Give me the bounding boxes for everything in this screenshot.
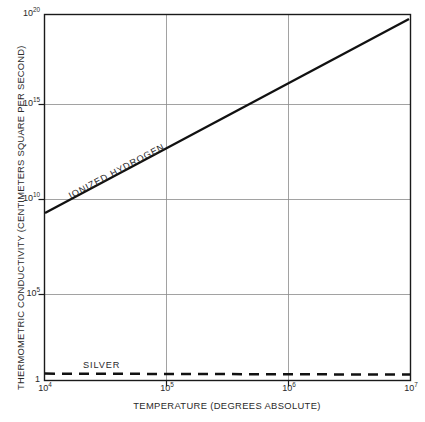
x-tick-label-1e4: 104 xyxy=(25,383,65,393)
plot-area xyxy=(0,0,425,422)
plot-frame xyxy=(45,15,411,381)
x-axis-title: TEMPERATURE (DEGREES ABSOLUTE) xyxy=(44,400,410,411)
horizontal-gridlines xyxy=(45,105,411,295)
vertical-gridlines xyxy=(167,15,289,381)
series-annotation-silver: SILVER xyxy=(83,360,120,370)
x-tick-label-1e6: 106 xyxy=(269,383,309,393)
x-tick-label-1e7: 107 xyxy=(391,383,425,393)
y-tick-label-1e15: 1015 xyxy=(23,98,40,108)
chart-figure: THERMOMETRIC CONDUCTIVITY (CENTIMETERS S… xyxy=(0,0,425,422)
y-tick-label-1e20: 1020 xyxy=(23,8,40,18)
x-tick-label-1e5: 105 xyxy=(147,383,187,393)
y-tick-label-1e10: 1010 xyxy=(23,193,40,203)
series-line-silver xyxy=(45,374,410,375)
y-tick-label-1e5: 105 xyxy=(26,288,40,298)
